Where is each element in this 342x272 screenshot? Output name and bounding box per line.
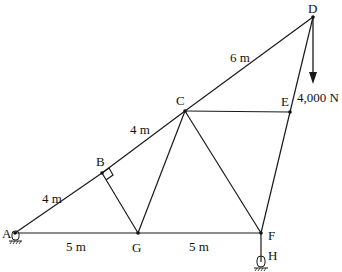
joint-b: [100, 171, 104, 175]
dimension-label: 4 m: [42, 191, 62, 206]
joint-g: [136, 231, 140, 235]
truss-diagram: ABCDEFGH 4 m4 m6 m5 m5 m 4,000 N: [0, 0, 342, 272]
dimension-label: 6 m: [230, 50, 250, 65]
node-label-b: B: [96, 154, 105, 169]
node-label-c: C: [176, 93, 185, 108]
joint-a: [13, 231, 17, 235]
dimension-label: 4 m: [130, 122, 150, 137]
member-ef: [261, 112, 290, 233]
node-label-g: G: [132, 240, 141, 255]
joint-c: [183, 109, 187, 113]
dimension-label: 5 m: [66, 239, 86, 254]
member-cf: [185, 111, 261, 233]
member-bg: [102, 173, 138, 233]
member-ce: [185, 111, 290, 112]
joint-f: [259, 231, 263, 235]
dimension-labels: 4 m4 m6 m5 m5 m: [42, 50, 250, 254]
right-angle-marker: [102, 168, 113, 180]
node-labels: ABCDEFGH: [2, 1, 317, 263]
node-label-f: F: [268, 228, 275, 243]
node-label-h: H: [268, 248, 277, 263]
node-label-e: E: [281, 94, 289, 109]
node-label-a: A: [2, 226, 12, 241]
dimension-label: 5 m: [189, 239, 209, 254]
load-label: 4,000 N: [297, 90, 340, 105]
truss-members: [15, 17, 313, 262]
joint-e: [288, 110, 292, 114]
node-label-d: D: [308, 1, 317, 16]
